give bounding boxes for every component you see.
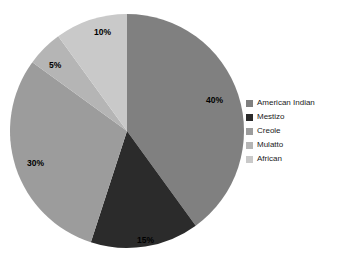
pie-svg: [0, 0, 245, 268]
slice-data-label-american-indian: 40%: [206, 96, 223, 105]
slice-data-label-african: 10%: [94, 28, 111, 37]
pie-plot-area: 40%15%30%5%10%: [0, 0, 245, 268]
legend-item-mestizo[interactable]: Mestizo: [246, 110, 341, 124]
legend-item-label: American Indian: [257, 99, 315, 107]
legend-item-mulatto[interactable]: Mulatto: [246, 138, 341, 152]
pie-slice-group: [10, 14, 244, 248]
legend-item-creole[interactable]: Creole: [246, 124, 341, 138]
legend-item-label: Mestizo: [257, 113, 285, 121]
pie-chart-figure: 40%15%30%5%10% American IndianMestizoCre…: [0, 0, 341, 268]
legend-item-label: Creole: [257, 127, 281, 135]
legend-swatch-icon: [246, 156, 253, 163]
legend-item-label: African: [257, 155, 282, 163]
legend-swatch-icon: [246, 142, 253, 149]
chart-legend: American IndianMestizoCreoleMulattoAfric…: [246, 96, 341, 166]
slice-data-label-mulatto: 5%: [49, 61, 61, 70]
legend-item-label: Mulatto: [257, 141, 283, 149]
legend-swatch-icon: [246, 114, 253, 121]
legend-swatch-icon: [246, 100, 253, 107]
slice-data-label-creole: 30%: [27, 159, 44, 168]
slice-data-label-mestizo: 15%: [137, 236, 154, 245]
legend-item-american-indian[interactable]: American Indian: [246, 96, 341, 110]
legend-item-african[interactable]: African: [246, 152, 341, 166]
legend-swatch-icon: [246, 128, 253, 135]
